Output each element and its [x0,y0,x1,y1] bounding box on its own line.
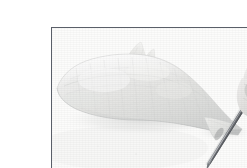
figure-root: A pale fish fillet lying on a white surf… [0,0,247,168]
framed-photograph: A pale fish fillet lying on a white surf… [51,27,247,168]
photograph-canvas [52,28,247,168]
